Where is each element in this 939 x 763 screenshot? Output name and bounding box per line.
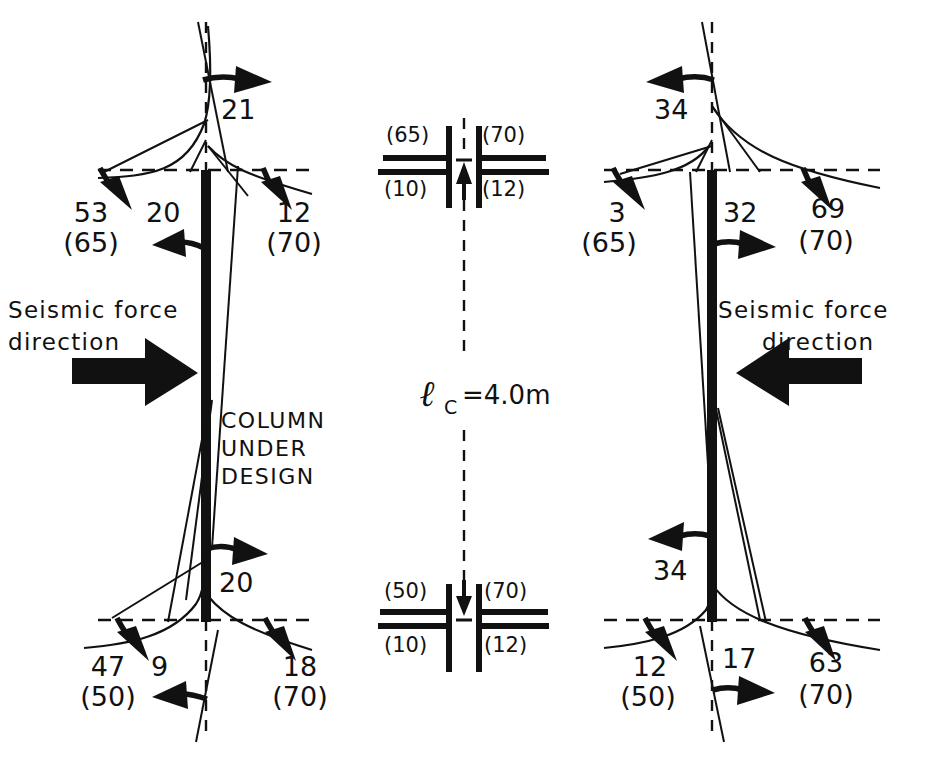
right-frame-group: 34 3 (65) 32 69 (70) 34: [581, 22, 888, 742]
right-seismic-label-line1: Seismic force: [718, 297, 889, 323]
center-bottom-joint-detail: (50) (70) (10) (12): [378, 579, 549, 672]
left-column-label-line2: UNDER: [221, 436, 307, 461]
left-frame-group: 21 53 (65) 20 12 (70) 20: [8, 22, 328, 742]
left-lower-right-beam-value: 18: [283, 651, 317, 682]
center-top-joint-detail: (65) (70) (10) (12): [378, 123, 549, 208]
right-upper-right-beam-value: 69: [811, 193, 845, 224]
center-length-subscript: C: [444, 396, 457, 418]
center-bottom-joint-lr-label: (12): [484, 633, 527, 657]
center-top-joint-lr-label: (12): [482, 177, 525, 201]
left-lower-left-beam-capacity: (50): [80, 681, 135, 712]
left-seismic-label-line2: direction: [8, 329, 121, 355]
left-top-moment-arrow-21: [203, 66, 272, 93]
right-lower-column-above-arrow: [648, 522, 710, 551]
left-upper-right-beam-value: 12: [277, 197, 311, 228]
right-upper-left-beam-value: 3: [608, 197, 625, 228]
left-lower-right-beam-moment-curve: [208, 596, 312, 650]
right-upper-right-beam-moment-curve: [712, 106, 880, 188]
left-lower-column-arrow: [152, 681, 207, 709]
left-upper-left-beam-moment-curve: [98, 26, 210, 178]
right-lower-right-beam-value: 63: [809, 647, 843, 678]
center-top-joint-ur-label: (70): [482, 123, 525, 147]
left-upper-left-beam-value: 53: [74, 197, 108, 228]
right-column-interior-moment-3: [718, 408, 766, 622]
center-bottom-joint-down-arrow: [456, 580, 472, 616]
right-upper-right-chord: [712, 106, 760, 172]
right-upper-right-beam-capacity: (70): [798, 225, 853, 256]
left-upper-column-arrow: [152, 229, 204, 257]
center-bottom-joint-ll-label: (10): [384, 633, 427, 657]
left-column-label-line3: DESIGN: [221, 464, 315, 489]
left-upper-column-value: 20: [146, 197, 180, 228]
left-seismic-label-line1: Seismic force: [8, 297, 179, 323]
moment-diagram-svg: 21 53 (65) 20 12 (70) 20: [0, 0, 939, 763]
left-column-label-line1: COLUMN: [221, 408, 325, 433]
left-upper-left-beam-capacity: (65): [63, 227, 118, 258]
left-top-moment-value: 21: [221, 94, 255, 125]
center-detail-group: (65) (70) (10) (12) ℓ C =4.0m (50) (70): [378, 118, 550, 672]
right-lower-column-above-value: 34: [653, 555, 687, 586]
center-top-joint-ul-label: (65): [386, 123, 429, 147]
left-lower-column-above-arrow: [207, 537, 268, 565]
center-top-joint-up-arrow: [456, 162, 472, 200]
right-top-moment-arrow-34: [646, 66, 714, 93]
right-lower-left-beam-capacity: (50): [620, 681, 675, 712]
right-upper-left-beam-capacity: (65): [581, 227, 636, 258]
left-lower-column-value: 9: [151, 651, 168, 682]
figure-root: 21 53 (65) 20 12 (70) 20: [0, 0, 939, 763]
left-upper-right-beam-capacity: (70): [266, 227, 321, 258]
center-length-value: =4.0m: [462, 380, 550, 410]
center-bottom-joint-ur-label: (70): [484, 579, 527, 603]
left-column-interior-moment: [212, 166, 238, 548]
right-top-moment-value: 34: [654, 94, 688, 125]
right-lower-right-beam-moment-curve: [712, 584, 880, 650]
center-top-joint-ll-label: (10): [384, 177, 427, 201]
right-lower-column-arrow: [713, 676, 775, 705]
right-lower-left-beam-value: 12: [633, 651, 667, 682]
left-lower-left-beam-moment-curve: [84, 552, 206, 648]
center-bottom-joint-ul-label: (50): [384, 579, 427, 603]
left-lower-right-beam-capacity: (70): [272, 681, 327, 712]
right-lower-right-beam-capacity: (70): [798, 679, 853, 710]
center-length-symbol: ℓ: [420, 372, 435, 414]
right-lower-column-value: 17: [722, 643, 756, 674]
right-upper-column-value: 32: [723, 197, 757, 228]
left-lower-left-beam-value: 47: [91, 651, 125, 682]
left-lower-column-above-value: 20: [219, 567, 253, 598]
right-column-interior-moment-2: [712, 390, 760, 620]
right-upper-column-arrow: [714, 230, 776, 259]
